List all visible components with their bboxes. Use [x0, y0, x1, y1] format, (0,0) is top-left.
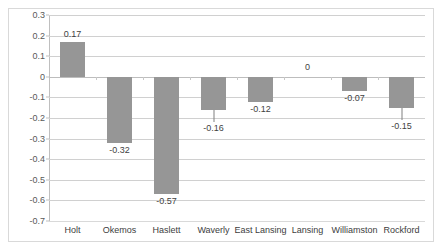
- x-axis-category-label: East Lansing: [234, 226, 286, 235]
- bar: [248, 77, 272, 102]
- y-axis-tick-label: -0.2: [29, 114, 45, 123]
- y-axis-tick-mark: [46, 159, 49, 160]
- x-axis-tick-mark: [378, 77, 379, 80]
- data-value-label: 0: [305, 63, 310, 72]
- label-leader-line: [213, 110, 214, 122]
- bar: [107, 77, 131, 143]
- x-axis-category-label: Haslett: [152, 226, 180, 235]
- y-axis-tick-mark: [46, 56, 49, 57]
- y-axis-tick-mark: [46, 97, 49, 98]
- y-axis-tick-mark: [46, 200, 49, 201]
- x-axis-tick-mark: [331, 77, 332, 80]
- data-value-label: -0.57: [156, 197, 177, 206]
- x-axis-baseline: [49, 221, 425, 222]
- x-axis-tick-mark: [284, 77, 285, 80]
- gridline: [49, 200, 425, 201]
- data-value-label: -0.07: [344, 94, 365, 103]
- y-axis-tick-label: -0.1: [29, 93, 45, 102]
- gridline: [49, 118, 425, 119]
- gridline: [49, 15, 425, 16]
- bar: [342, 77, 366, 91]
- gridline: [49, 97, 425, 98]
- x-axis-category-labels: HoltOkemosHaslettWaverlyEast LansingLans…: [49, 223, 425, 239]
- gridline: [49, 56, 425, 57]
- y-axis-tick-label: -0.7: [29, 217, 45, 226]
- data-value-label: -0.16: [203, 124, 224, 133]
- plot-area: 0.30.20.10-0.1-0.2-0.3-0.4-0.5-0.6-0.7 0…: [49, 15, 425, 221]
- y-axis-tick-label: -0.6: [29, 196, 45, 205]
- chart-frame: 0.30.20.10-0.1-0.2-0.3-0.4-0.5-0.6-0.7 0…: [8, 8, 434, 242]
- y-axis-tick-label: 0.1: [32, 52, 45, 61]
- bar: [154, 77, 178, 194]
- x-axis-category-label: Holt: [64, 226, 80, 235]
- y-axis-tick-mark: [46, 35, 49, 36]
- y-axis-tick-mark: [46, 118, 49, 119]
- y-axis-tick-mark: [46, 15, 49, 16]
- label-leader-line: [401, 108, 402, 120]
- y-axis-tick-label: 0.2: [32, 31, 45, 40]
- gridline: [49, 139, 425, 140]
- y-axis-tick-mark: [46, 138, 49, 139]
- x-axis-category-label: Rockford: [383, 226, 419, 235]
- gridline: [49, 180, 425, 181]
- data-value-label: -0.15: [391, 122, 412, 131]
- x-axis-category-label: Lansing: [292, 226, 324, 235]
- y-axis-tick-label: 0.3: [32, 11, 45, 20]
- data-value-label: -0.32: [109, 146, 130, 155]
- y-axis-tick-label: -0.5: [29, 175, 45, 184]
- y-axis-tick-mark: [46, 76, 49, 77]
- gridline: [49, 159, 425, 160]
- y-axis-tick-mark: [46, 179, 49, 180]
- data-value-label: 0.17: [64, 30, 82, 39]
- gridline: [49, 36, 425, 37]
- x-axis-tick-mark: [237, 77, 238, 80]
- x-axis-tick-mark: [190, 77, 191, 80]
- y-axis-tick-label: -0.3: [29, 134, 45, 143]
- x-axis-category-label: Williamston: [331, 226, 377, 235]
- x-axis-tick-mark: [143, 77, 144, 80]
- y-axis-tick-label: 0: [40, 72, 45, 81]
- x-axis-tick-mark: [96, 77, 97, 80]
- bar: [389, 77, 413, 108]
- bar: [60, 42, 84, 77]
- data-value-label: -0.12: [250, 105, 271, 114]
- bar: [201, 77, 225, 110]
- x-axis-category-label: Waverly: [197, 226, 229, 235]
- x-axis-category-label: Okemos: [103, 226, 137, 235]
- y-axis-tick-label: -0.4: [29, 155, 45, 164]
